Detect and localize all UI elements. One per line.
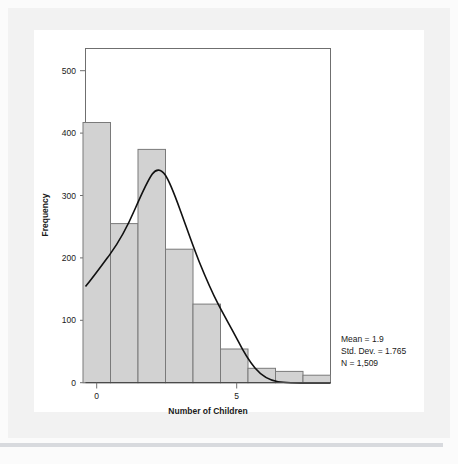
- y-tick-label-0: 0: [71, 378, 76, 388]
- bar-2: [138, 149, 166, 382]
- x-tick-5: 5: [234, 383, 239, 401]
- y-tick-300: 300: [62, 191, 86, 201]
- y-tick-100: 100: [62, 315, 86, 325]
- y-axis-title: Frequency: [40, 193, 50, 236]
- stats-annotation: Mean = 1.9 Std. Dev. = 1.765 N = 1,509: [341, 334, 407, 368]
- bar-8: [303, 375, 331, 383]
- y-tick-400: 400: [62, 128, 86, 138]
- y-tick-label-100: 100: [62, 315, 76, 325]
- y-tick-500: 500: [62, 66, 86, 76]
- y-tick-label-200: 200: [62, 253, 76, 263]
- histogram-svg: 500 400 300 200 100: [0, 0, 458, 464]
- stat-std-dev: Std. Dev. = 1.765: [341, 346, 407, 356]
- bar-0: [83, 123, 111, 383]
- y-tick-label-500: 500: [62, 66, 76, 76]
- y-tick-200: 200: [62, 253, 86, 263]
- y-axis: 500 400 300 200 100: [62, 66, 86, 388]
- y-tick-label-400: 400: [62, 128, 76, 138]
- x-tick-0: 0: [94, 383, 99, 401]
- x-tick-label-5: 5: [234, 391, 239, 401]
- bar-3: [166, 249, 194, 383]
- x-axis-title: Number of Children: [168, 406, 247, 416]
- stat-n: N = 1,509: [341, 358, 378, 368]
- bar-4: [193, 304, 221, 383]
- x-tick-label-0: 0: [94, 391, 99, 401]
- bar-7: [276, 371, 304, 382]
- y-tick-label-300: 300: [62, 191, 76, 201]
- bar-5: [221, 349, 249, 383]
- stat-mean: Mean = 1.9: [341, 334, 384, 344]
- histogram-chart: 500 400 300 200 100: [0, 0, 458, 464]
- x-axis: 0 5: [94, 383, 239, 401]
- page-root: 500 400 300 200 100: [0, 0, 458, 464]
